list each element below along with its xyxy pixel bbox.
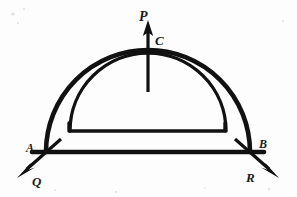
label-p: P bbox=[139, 9, 148, 24]
label-a: A bbox=[25, 141, 34, 155]
figure-root: P C A B Q R bbox=[0, 0, 297, 197]
label-r: R bbox=[245, 170, 255, 185]
label-b: B bbox=[258, 137, 267, 151]
label-c: C bbox=[155, 33, 164, 48]
label-q: Q bbox=[32, 174, 42, 189]
arch-force-diagram: P C A B Q R bbox=[0, 0, 297, 197]
